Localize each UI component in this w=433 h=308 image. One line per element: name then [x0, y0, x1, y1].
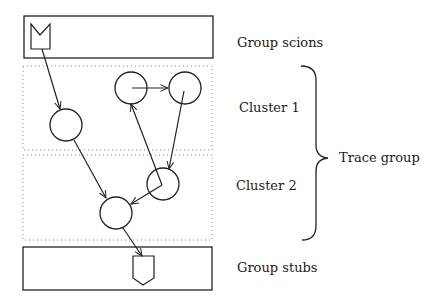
edge-e-stub: [123, 228, 142, 256]
node-a: [50, 109, 82, 141]
node-d: [147, 168, 179, 200]
trace-group-label: Trace group: [339, 150, 420, 165]
edge-d-b: [131, 104, 162, 185]
edge-c-d: [169, 91, 184, 169]
group-stubs-label: Group stubs: [237, 260, 318, 275]
group-scions-box: [24, 16, 213, 58]
scion-icon: [31, 24, 50, 49]
cluster-1-label: Cluster 1: [239, 100, 300, 115]
edge-a-e: [74, 140, 106, 198]
stub-icon: [133, 256, 154, 285]
node-c: [169, 72, 201, 104]
node-e: [100, 197, 132, 229]
trace-group-brace: [301, 66, 328, 240]
cluster-2-label: Cluster 2: [236, 178, 297, 193]
edge-d-e: [131, 185, 162, 204]
group-scions-label: Group scions: [237, 35, 323, 50]
group-stubs-box: [23, 247, 212, 290]
